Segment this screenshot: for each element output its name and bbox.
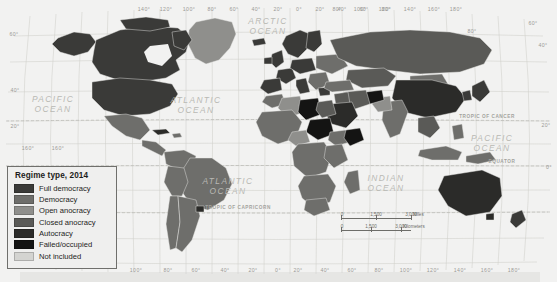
longitude-top-5: 40° <box>251 6 260 12</box>
scale-bar-kilometers: 0 1,500 3,000 Kilometers <box>341 225 433 235</box>
longitude-bottom-13: 160° <box>481 267 493 273</box>
longitude-top-14: 120° <box>379 6 391 12</box>
country-alaska <box>52 32 96 56</box>
scale-km-1: 1,500 <box>365 224 377 229</box>
country-turkey <box>324 80 354 92</box>
legend-swatch <box>14 184 34 193</box>
longitude-top-17: 180° <box>450 6 462 12</box>
country-new-zealand <box>510 210 526 228</box>
longitude-bottom-5: 0° <box>275 267 281 273</box>
legend-item-open-anocracy[interactable]: Open anocracy <box>14 206 111 216</box>
legend-swatch <box>14 206 34 215</box>
legend-title: Regime type, 2014 <box>15 171 111 180</box>
latitude-left-3: 160° <box>22 145 34 151</box>
legend-label: Autocracy <box>39 229 73 238</box>
longitude-bottom-8: 60° <box>347 267 356 273</box>
antarctica <box>20 272 540 282</box>
country-kazakhstan <box>346 68 396 88</box>
legend-label: Full democracy <box>39 184 90 193</box>
indian-ocean-label-line2: OCEAN <box>368 183 405 193</box>
scale-miles-0: 0 <box>341 212 344 217</box>
indian-ocean-label-line1: INDIAN <box>368 173 405 183</box>
arctic-ocean-label-line2: OCEAN <box>250 26 287 36</box>
tropic-of-cancer-label: TROPIC OF CANCER <box>459 114 515 119</box>
longitude-bottom-11: 120° <box>427 267 439 273</box>
latitude-left-1: 40° <box>10 87 19 93</box>
legend-label: Closed anocracy <box>39 218 96 227</box>
legend-items: Full democracyDemocracyOpen anocracyClos… <box>14 183 111 261</box>
longitude-bottom-1: 80° <box>163 267 172 273</box>
country-argentina <box>176 196 200 252</box>
latitude-right-4: 80° <box>467 28 476 34</box>
country-tasmania <box>486 213 494 220</box>
pacific-ocean-west-label-line1: PACIFIC <box>32 94 74 104</box>
longitude-bottom-9: 80° <box>374 267 383 273</box>
legend-label: Democracy <box>39 195 77 204</box>
country-iceland <box>252 38 266 46</box>
pacific-ocean-west-label-line2: OCEAN <box>35 104 72 114</box>
legend-swatch <box>14 229 34 238</box>
longitude-top-3: 80° <box>207 6 216 12</box>
longitude-top-8: 20° <box>315 6 324 12</box>
country-south-africa <box>304 198 330 216</box>
longitude-top-0: 140° <box>138 6 150 12</box>
latitude-right-1: 40° <box>538 42 547 48</box>
scale-bar: 0 1,500 3,000 Miles 0 1,500 3,000 Kilome… <box>341 213 433 235</box>
longitude-bottom-4: 20° <box>248 267 257 273</box>
country-germany-poland <box>290 58 316 74</box>
scale-km-unit: Kilometers <box>403 224 425 229</box>
longitude-top-7: 0° <box>296 6 302 12</box>
longitude-top-6: 20° <box>273 6 282 12</box>
longitude-bottom-0: 100° <box>130 267 142 273</box>
country-korea <box>462 90 472 101</box>
legend-item-full-democracy[interactable]: Full democracy <box>14 183 111 193</box>
longitude-top-16: 160° <box>428 6 440 12</box>
arctic-ocean-label-line1: ARCTIC <box>247 16 288 26</box>
country-indonesia <box>418 146 462 160</box>
longitude-bottom-2: 60° <box>191 267 200 273</box>
legend-label: Not included <box>39 252 81 261</box>
country-philippines <box>452 124 464 140</box>
latitude-left-4: 160° <box>52 145 64 151</box>
country-southeast-asia <box>418 116 440 138</box>
longitude-top-1: 120° <box>160 6 172 12</box>
latitude-left-2: 20° <box>10 123 19 129</box>
legend-swatch <box>14 218 34 227</box>
map-legend: Regime type, 2014 Full democracyDemocrac… <box>7 166 117 269</box>
latitude-right-3: 0° <box>546 164 552 170</box>
longitude-bottom-10: 100° <box>400 267 412 273</box>
country-finland <box>306 30 322 52</box>
country-usa <box>92 78 178 116</box>
legend-item-failed-occupied[interactable]: Failed/occupied <box>14 240 111 250</box>
longitude-bottom-6: 20° <box>293 267 302 273</box>
legend-item-closed-anocracy[interactable]: Closed anocracy <box>14 217 111 227</box>
scale-bar-miles: 0 1,500 3,000 Miles <box>341 213 433 223</box>
latitude-right-2: 20° <box>541 122 550 128</box>
tropic-of-capricorn-label: TROPIC OF CAPRICORN <box>205 205 271 210</box>
legend-item-democracy[interactable]: Democracy <box>14 194 111 204</box>
legend-label: Open anocracy <box>39 206 91 215</box>
latitude-right-0: 60° <box>528 20 537 26</box>
cuba <box>152 129 170 135</box>
longitude-bottom-3: 40° <box>220 267 229 273</box>
country-iberia <box>260 78 282 94</box>
atlantic-ocean-north-label-line2: OCEAN <box>178 105 215 115</box>
longitude-bottom-7: 40° <box>320 267 329 273</box>
country-greenland <box>188 18 236 64</box>
longitude-bottom-12: 140° <box>454 267 466 273</box>
longitude-top-4: 60° <box>229 6 238 12</box>
country-italy <box>296 78 310 94</box>
world-map: ARCTICOCEANPACIFICOCEANATLANTICOCEANATLA… <box>0 0 557 282</box>
pacific-ocean-east-label-line1: PACIFIC <box>471 133 513 143</box>
legend-item-autocracy[interactable]: Autocracy <box>14 229 111 239</box>
legend-swatch <box>14 252 34 261</box>
hispaniola <box>172 133 182 138</box>
legend-item-not-included[interactable]: Not included <box>14 251 111 261</box>
latitude-left-0: 60° <box>9 31 18 37</box>
legend-label: Failed/occupied <box>39 240 92 249</box>
longitude-bottom-14: 180° <box>508 267 520 273</box>
country-australia <box>438 170 502 216</box>
legend-swatch <box>14 240 34 249</box>
pacific-ocean-east-label-line2: OCEAN <box>474 143 511 153</box>
longitude-top-2: 100° <box>183 6 195 12</box>
